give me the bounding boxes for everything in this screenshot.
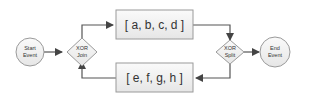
process-diagram: Start Event XOR Join [ a, b, c, d ] [ e,…	[0, 0, 309, 100]
xor-join-label-1: XOR	[76, 45, 88, 51]
xor-split-label-2: Split	[225, 52, 236, 58]
xor-join-gateway[interactable]: XOR Join	[67, 38, 97, 66]
start-event-label-2: Event	[23, 52, 38, 58]
task-top[interactable]: [ a, b, c, d ]	[116, 10, 193, 39]
end-event-label-1: End	[270, 45, 280, 51]
task-top-label: [ a, b, c, d ]	[125, 18, 184, 32]
task-bottom-label: [ e, f, g, h ]	[126, 71, 183, 85]
xor-split-label-1: XOR	[224, 45, 236, 51]
end-event[interactable]: End Event	[260, 37, 290, 67]
edge-join-top	[82, 25, 113, 44]
xor-join-label-2: Join	[77, 52, 87, 58]
start-event[interactable]: Start Event	[16, 38, 44, 66]
start-event-label-1: Start	[24, 45, 36, 51]
edge-top-split	[193, 25, 230, 40]
edge-split-bottom	[196, 64, 230, 78]
edge-bottom-join	[82, 62, 116, 78]
end-event-label-2: Event	[268, 52, 283, 58]
xor-split-gateway[interactable]: XOR Split	[216, 40, 244, 64]
task-bottom[interactable]: [ e, f, g, h ]	[116, 63, 193, 92]
